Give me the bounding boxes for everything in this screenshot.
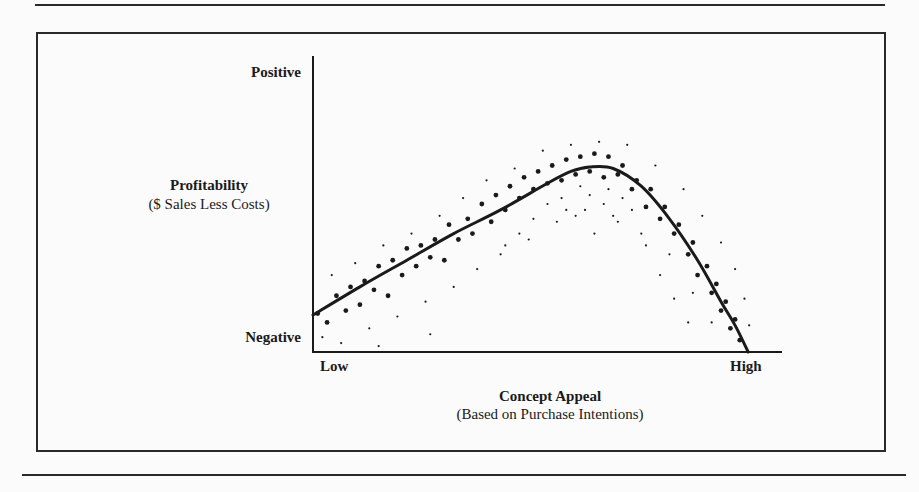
data-point bbox=[570, 144, 572, 146]
data-point bbox=[612, 215, 614, 217]
data-point bbox=[601, 175, 606, 180]
data-point bbox=[321, 336, 323, 338]
data-point bbox=[687, 321, 689, 323]
data-point bbox=[358, 302, 363, 307]
data-point bbox=[592, 151, 597, 156]
data-point bbox=[658, 216, 663, 221]
data-point bbox=[579, 185, 581, 187]
data-point bbox=[550, 163, 555, 168]
data-point bbox=[573, 172, 578, 177]
x-axis-subtitle: (Based on Purchase Intentions) bbox=[380, 406, 720, 423]
y-tick-negative: Negative bbox=[245, 329, 301, 346]
x-tick-low: Low bbox=[320, 358, 348, 375]
data-point bbox=[606, 154, 611, 159]
data-point bbox=[578, 154, 583, 159]
data-point bbox=[711, 321, 713, 323]
data-point bbox=[709, 290, 714, 295]
data-point bbox=[682, 188, 684, 190]
data-point bbox=[439, 215, 441, 217]
data-point bbox=[522, 175, 527, 180]
data-point bbox=[565, 209, 567, 211]
data-point bbox=[334, 293, 339, 298]
data-point bbox=[354, 262, 356, 264]
data-point bbox=[532, 218, 534, 220]
data-point bbox=[470, 231, 475, 236]
data-point bbox=[378, 345, 380, 347]
data-point bbox=[508, 184, 513, 189]
data-point bbox=[692, 292, 694, 294]
data-point bbox=[630, 187, 635, 192]
data-point bbox=[518, 233, 520, 235]
x-axis-title: Concept Appeal bbox=[380, 388, 720, 405]
data-point bbox=[559, 178, 564, 183]
data-point bbox=[626, 144, 628, 146]
data-point bbox=[645, 244, 647, 246]
data-point bbox=[720, 241, 722, 243]
data-point bbox=[672, 231, 677, 236]
y-axis-title: Profitability bbox=[156, 177, 262, 194]
data-point bbox=[396, 315, 398, 317]
data-point bbox=[494, 193, 499, 198]
data-point bbox=[404, 246, 409, 251]
data-point bbox=[485, 179, 487, 181]
data-point bbox=[593, 233, 595, 235]
data-point bbox=[410, 233, 412, 235]
data-point bbox=[748, 324, 750, 326]
data-point bbox=[476, 268, 478, 270]
data-point bbox=[743, 298, 745, 300]
data-point bbox=[631, 209, 633, 211]
data-point bbox=[621, 197, 623, 199]
data-point bbox=[428, 255, 433, 260]
data-point bbox=[414, 264, 419, 269]
data-point bbox=[325, 320, 330, 325]
data-point bbox=[575, 215, 577, 217]
data-point bbox=[382, 244, 384, 246]
data-point bbox=[701, 215, 703, 217]
data-point bbox=[504, 244, 506, 246]
data-point bbox=[489, 219, 494, 224]
y-axis-subtitle: ($ Sales Less Costs) bbox=[128, 196, 290, 213]
data-point bbox=[348, 284, 353, 289]
data-point bbox=[442, 258, 447, 263]
data-point bbox=[536, 169, 541, 174]
data-point bbox=[598, 141, 600, 143]
data-point bbox=[400, 273, 405, 278]
data-point bbox=[728, 326, 733, 331]
data-point bbox=[429, 333, 431, 335]
data-point bbox=[456, 237, 461, 242]
data-point bbox=[343, 308, 348, 313]
data-point bbox=[479, 202, 484, 207]
data-point bbox=[719, 308, 724, 313]
data-point bbox=[368, 327, 370, 329]
data-point bbox=[668, 253, 670, 255]
data-point bbox=[644, 205, 649, 210]
y-tick-positive: Positive bbox=[251, 64, 301, 81]
data-point bbox=[584, 209, 586, 211]
data-point bbox=[648, 187, 653, 192]
data-point bbox=[500, 253, 502, 255]
x-tick-high: High bbox=[730, 358, 762, 375]
data-point bbox=[424, 301, 426, 303]
data-point bbox=[556, 221, 558, 223]
data-point bbox=[546, 203, 548, 205]
data-point bbox=[542, 150, 544, 152]
data-point bbox=[620, 163, 625, 168]
data-point bbox=[607, 188, 609, 190]
data-point bbox=[589, 194, 591, 196]
data-point bbox=[390, 258, 395, 263]
scatter-points-large bbox=[315, 151, 742, 342]
data-point bbox=[418, 243, 423, 248]
data-point bbox=[386, 293, 391, 298]
data-point bbox=[465, 216, 470, 221]
data-point bbox=[686, 252, 691, 257]
data-point bbox=[714, 282, 719, 287]
data-point bbox=[723, 299, 728, 304]
data-point bbox=[433, 237, 438, 242]
data-point bbox=[673, 298, 675, 300]
data-point bbox=[587, 169, 592, 174]
data-point bbox=[340, 342, 342, 344]
data-point bbox=[528, 238, 530, 240]
data-point bbox=[331, 274, 333, 276]
data-point bbox=[372, 287, 377, 292]
data-point bbox=[659, 274, 661, 276]
